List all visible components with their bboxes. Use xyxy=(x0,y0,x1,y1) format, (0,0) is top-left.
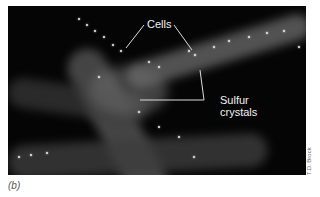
sulfur-label-line1: Sulfur xyxy=(220,94,257,106)
panel-label: (b) xyxy=(8,180,20,191)
sulfur-label-line2: crystals xyxy=(220,106,257,118)
sulfur-crystals-label: Sulfur crystals xyxy=(220,94,257,118)
cells-label: Cells xyxy=(147,18,171,30)
photo-credit: T.D. Brock xyxy=(306,147,312,175)
micrograph-photo: Cells Sulfur crystals xyxy=(8,6,306,175)
leader-lines xyxy=(8,6,306,175)
